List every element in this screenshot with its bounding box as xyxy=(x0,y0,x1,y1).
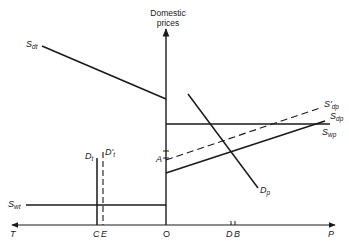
label-s-wt: Swt xyxy=(8,200,21,211)
y-axis-title: Domestic prices xyxy=(143,9,193,29)
label-s-wp: Swp xyxy=(322,128,336,139)
label-s-dp: Sdp xyxy=(330,112,343,123)
label-s-dp-prime: S'dp xyxy=(324,100,339,111)
label-d-t: Dt xyxy=(85,152,93,163)
label-c: C xyxy=(93,230,100,239)
curve-s-dp-prime xyxy=(166,108,320,160)
curve-s-dt xyxy=(42,46,166,99)
label-s-dt: Sdt xyxy=(26,40,37,51)
label-d-p: Dp xyxy=(260,186,270,197)
y-axis-title-line2: prices xyxy=(143,19,193,29)
label-d-t-prime: D't xyxy=(105,148,115,159)
label-p: P xyxy=(328,230,334,239)
curve-s-wp xyxy=(166,121,325,173)
label-b: B xyxy=(234,230,240,239)
label-t: T xyxy=(10,230,16,239)
label-d: D xyxy=(226,230,233,239)
diagram-canvas xyxy=(0,0,349,243)
label-origin: O xyxy=(163,230,170,239)
label-a: A xyxy=(156,155,162,164)
label-e: E xyxy=(101,230,107,239)
